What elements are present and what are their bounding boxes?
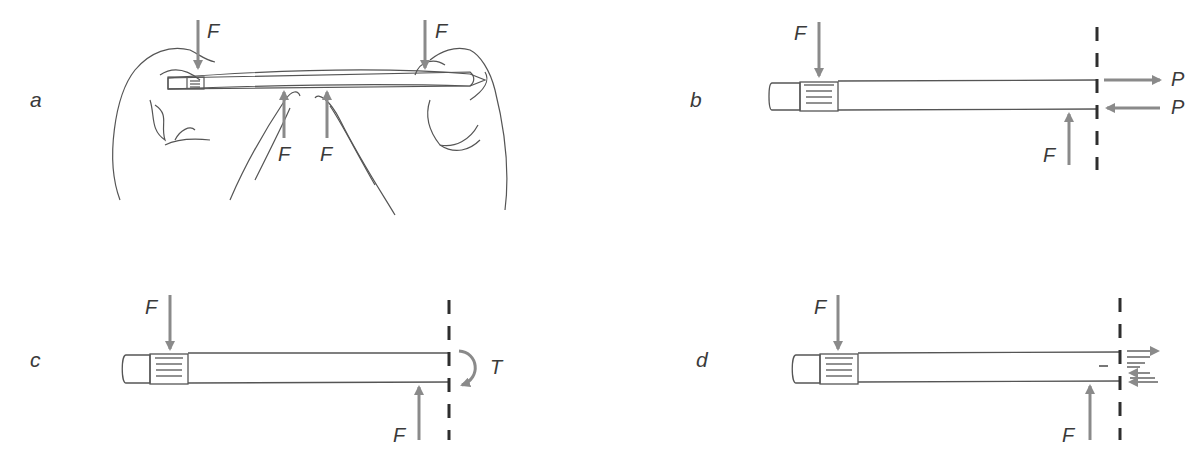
panel-label-c: c <box>30 348 41 372</box>
panel-d-stress-arrows <box>1127 351 1158 382</box>
force-label: F <box>278 143 290 166</box>
panel-c-arrows <box>170 295 475 440</box>
force-label: F <box>435 20 447 43</box>
force-label: F <box>1043 144 1055 167</box>
force-label: F <box>794 22 806 45</box>
panel-b-pen <box>769 80 1097 111</box>
reaction-label: P <box>1171 96 1184 119</box>
force-label: F <box>320 143 332 166</box>
force-label: F <box>814 296 826 319</box>
reaction-label: P <box>1171 68 1184 91</box>
panel-label-d: d <box>696 348 708 372</box>
force-label: F <box>1062 424 1074 447</box>
panel-label-a: a <box>30 88 42 112</box>
panel-d-arrows <box>838 295 1090 440</box>
diagram-canvas <box>0 0 1196 461</box>
panel-label-b: b <box>690 88 702 112</box>
force-label: F <box>393 424 405 447</box>
force-label: F <box>145 296 157 319</box>
panel-d-pen <box>792 352 1120 384</box>
panel-c-pen <box>122 353 449 384</box>
panel-b-arrows <box>819 22 1160 165</box>
torque-label: T <box>490 356 502 379</box>
torque-arrow <box>459 351 475 385</box>
panel-a-illustration <box>113 48 507 215</box>
panel-a-force-arrows <box>198 20 425 138</box>
force-label: F <box>207 20 219 43</box>
